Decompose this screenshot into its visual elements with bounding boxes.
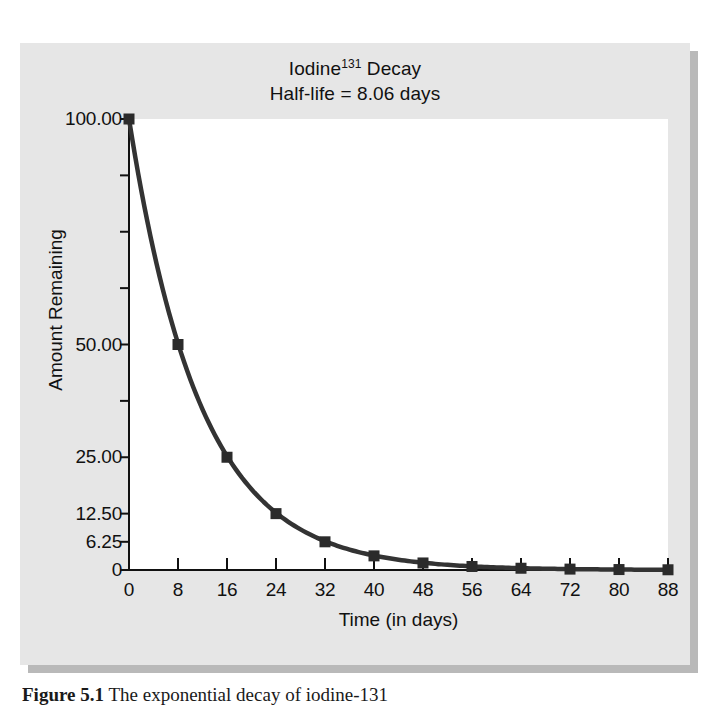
axis-spine — [129, 119, 668, 570]
data-point-marker — [663, 564, 674, 575]
x-axis-tick-label: 8 — [173, 579, 183, 601]
x-axis-tick-label: 80 — [609, 579, 630, 601]
data-point-markers — [124, 114, 674, 576]
data-point-marker — [271, 508, 282, 519]
data-point-marker — [222, 452, 233, 463]
figure-caption-text: The exponential decay of iodine-131 — [108, 684, 388, 705]
x-axis-tick-label: 64 — [511, 579, 532, 601]
y-axis-tick-label: 0 — [112, 559, 122, 581]
figure-panel: Iodine131 Decay Half-life = 8.06 days 10… — [20, 43, 690, 665]
x-axis-tick-label: 32 — [315, 579, 336, 601]
data-point-marker — [173, 339, 184, 350]
data-point-marker — [516, 563, 527, 574]
chart-title-word-decay: Decay — [361, 58, 421, 79]
x-axis-tick-label: 40 — [364, 579, 385, 601]
x-axis-tick-label: 48 — [413, 579, 434, 601]
x-axis-tick-label: 56 — [462, 579, 483, 601]
y-axis-tick-labels: 100.0050.0025.0012.506.250 — [20, 43, 122, 665]
y-axis-tick-label: 100.00 — [65, 108, 122, 130]
x-axis-tick-label: 16 — [217, 579, 238, 601]
y-axis-tick-label: 6.25 — [86, 531, 122, 553]
y-axis-tick-label: 50.00 — [75, 334, 122, 356]
data-point-marker — [124, 114, 135, 125]
chart-title-element-name: Iodine — [289, 58, 341, 79]
chart-title-mass-number: 131 — [341, 57, 361, 71]
data-point-marker — [320, 536, 331, 547]
x-axis-tick-label: 24 — [266, 579, 287, 601]
decay-curve-line — [129, 119, 668, 570]
y-axis-tick-label: 25.00 — [75, 446, 122, 468]
x-axis-tick-label: 72 — [560, 579, 581, 601]
data-point-marker — [565, 564, 576, 575]
decay-curve-plot — [129, 119, 668, 570]
plot-area — [129, 119, 668, 570]
data-point-marker — [614, 564, 625, 575]
x-axis-tick-labels: 0816243240485664728088 — [20, 579, 690, 607]
data-point-marker — [467, 561, 478, 572]
axis-lines — [129, 119, 668, 570]
data-point-marker — [418, 557, 429, 568]
y-axis-title: Amount Remaining — [45, 210, 67, 410]
figure-caption: Figure 5.1 The exponential decay of iodi… — [22, 684, 712, 706]
data-point-marker — [369, 550, 380, 561]
x-axis-tick-label: 88 — [658, 579, 679, 601]
x-axis-title: Time (in days) — [129, 609, 668, 631]
y-axis-tick-label: 12.50 — [75, 503, 122, 525]
x-axis-tick-label: 0 — [124, 579, 134, 601]
figure-caption-label: Figure 5.1 — [22, 684, 104, 705]
